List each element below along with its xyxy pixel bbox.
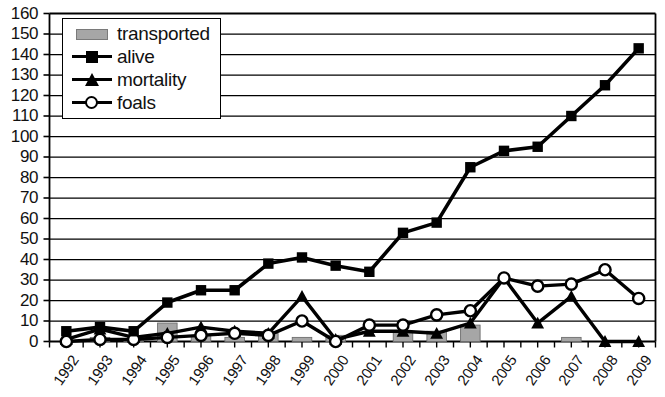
triangle-marker-icon — [71, 70, 113, 90]
y-tick-label: 160 — [2, 5, 38, 22]
y-tick-label: 140 — [2, 46, 38, 63]
y-tick-label: 60 — [2, 210, 38, 227]
legend-label-alive: alive — [117, 47, 155, 66]
legend-item-foals: foals — [71, 91, 210, 114]
legend-item-alive: alive — [71, 45, 210, 68]
y-tick-label: 20 — [2, 292, 38, 309]
legend-label-mortality: mortality — [117, 70, 186, 89]
y-tick-label: 90 — [2, 148, 38, 165]
y-tick-label: 40 — [2, 251, 38, 268]
bar-swatch-icon — [71, 24, 113, 44]
y-tick-label: 150 — [2, 25, 38, 42]
y-tick-label: 10 — [2, 312, 38, 329]
legend-label-transported: transported — [117, 24, 210, 43]
chart-legend: transported alive mortality foals — [62, 18, 221, 119]
y-tick-label: 120 — [2, 87, 38, 104]
y-tick-label: 100 — [2, 128, 38, 145]
y-tick-label: 0 — [2, 333, 38, 350]
y-tick-label: 50 — [2, 230, 38, 247]
legend-label-foals: foals — [117, 93, 156, 112]
y-tick-label: 110 — [2, 107, 38, 124]
legend-item-mortality: mortality — [71, 68, 210, 91]
y-tick-label: 30 — [2, 271, 38, 288]
legend-item-transported: transported — [71, 22, 210, 45]
line-chart: 1601501401301201101009080706050403020100… — [0, 0, 665, 397]
y-tick-label: 130 — [2, 66, 38, 83]
circle-marker-icon — [71, 93, 113, 113]
square-marker-icon — [71, 47, 113, 67]
y-tick-label: 70 — [2, 189, 38, 206]
y-tick-label: 80 — [2, 169, 38, 186]
